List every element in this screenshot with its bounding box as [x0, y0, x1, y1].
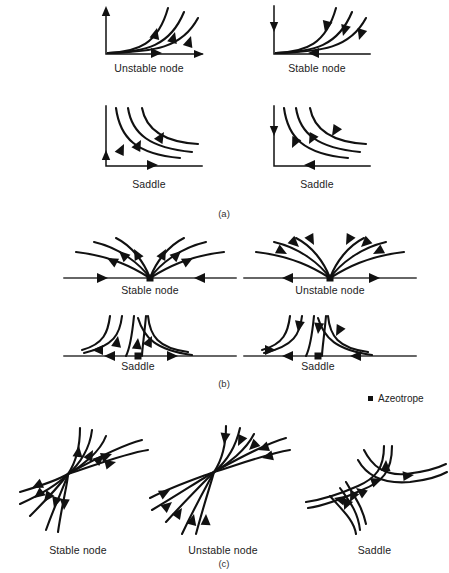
section-label-c: (c) [204, 558, 244, 569]
caption-saddle-interior: Saddle [300, 544, 449, 556]
panel-saddle-edge-1 [60, 314, 240, 364]
panel-unstable-node-interior [148, 424, 298, 536]
panel-stable-node-edge [60, 234, 240, 286]
caption-saddle-edge-1: Saddle [48, 360, 228, 372]
caption-stable-node-edge: Stable node [60, 284, 240, 296]
panel-unstable-node-corner [84, 2, 214, 60]
azeotrope-square-marker [368, 396, 373, 401]
caption-unstable-node-edge: Unstable node [240, 284, 420, 296]
section-label-a: (a) [204, 208, 244, 219]
panel-saddle-edge-2 [240, 314, 420, 364]
legend-label: Azeotrope [378, 393, 424, 404]
caption-saddle-edge-2: Saddle [228, 360, 408, 372]
caption-stable-node-interior: Stable node [8, 544, 148, 556]
residue-curve-map-figure: Unstable node Stable node Saddle [0, 0, 449, 573]
legend-azeotrope: Azeotrope [368, 393, 424, 404]
panel-saddle-corner-1 [84, 104, 214, 174]
caption-saddle-corner-2: Saddle [232, 178, 402, 190]
caption-unstable-node-interior: Unstable node [148, 544, 298, 556]
section-label-b: (b) [204, 378, 244, 389]
caption-stable-node-corner: Stable node [232, 62, 402, 74]
panel-stable-node-interior [18, 424, 158, 536]
caption-unstable-node-corner: Unstable node [64, 62, 234, 74]
panel-saddle-corner-2 [252, 104, 382, 174]
panel-unstable-node-edge [240, 234, 420, 286]
caption-saddle-corner-1: Saddle [64, 178, 234, 190]
panel-stable-node-corner [252, 2, 382, 60]
panel-saddle-interior [300, 424, 449, 536]
